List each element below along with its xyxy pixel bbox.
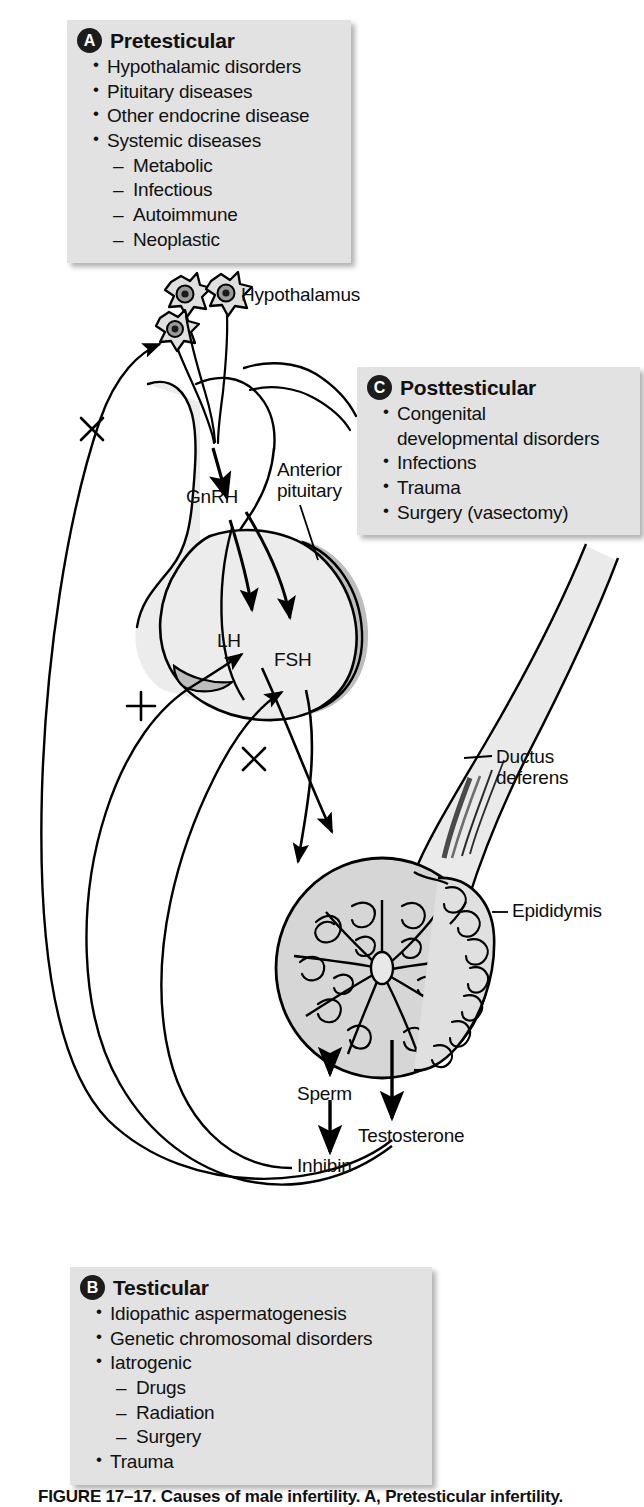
infobox-title-b: Testicular — [113, 1276, 209, 1300]
badge-a: A — [77, 28, 102, 53]
badge-c: C — [367, 375, 392, 400]
infobox-list-c: Congenital developmental disorders Infec… — [367, 402, 630, 525]
label-ductus-deferens: Ductus deferens — [496, 746, 568, 789]
list-item: Iatrogenic — [80, 1351, 422, 1376]
infobox-testicular: B Testicular Idiopathic aspermatogenesis… — [70, 1267, 432, 1485]
feedback-sign-negative-hypothalamus — [81, 418, 103, 440]
list-item: Infectious — [77, 178, 341, 203]
list-item: Trauma — [367, 476, 630, 501]
list-item: Radiation — [80, 1401, 422, 1426]
infobox-posttesticular: C Posttesticular Congenital developmenta… — [357, 367, 640, 535]
list-item: Other endocrine disease — [77, 104, 341, 129]
list-item: Systemic diseases — [77, 129, 341, 154]
infobox-list-a: Hypothalamic disorders Pituitary disease… — [77, 55, 341, 253]
infobox-title-a: Pretesticular — [110, 29, 235, 53]
badge-b: B — [80, 1275, 105, 1300]
figure-page: Hypothalamus Anterior pituitary GnRH LH … — [0, 0, 644, 1507]
figure-caption: FIGURE 17–17. Causes of male infertility… — [38, 1487, 638, 1507]
infobox-header-c: C Posttesticular — [367, 375, 630, 400]
feedback-sign-negative-fsh — [243, 748, 265, 770]
list-item: Pituitary diseases — [77, 80, 341, 105]
inhibin-negative-feedback-path — [161, 692, 292, 1168]
label-anterior-pituitary: Anterior pituitary — [277, 459, 342, 502]
ductus-deferens-shape — [414, 544, 618, 902]
list-item: Hypothalamic disorders — [77, 55, 341, 80]
label-hypothalamus: Hypothalamus — [241, 284, 360, 305]
hypothalamic-neuron-group — [156, 272, 252, 443]
list-item: Surgery — [80, 1425, 422, 1450]
feedback-sign-positive-lh — [127, 692, 155, 720]
label-epididymis: Epididymis — [512, 900, 602, 921]
list-item: Surgery (vasectomy) — [367, 501, 630, 526]
list-item: Genetic chromosomal disorders — [80, 1327, 422, 1352]
list-item: Idiopathic aspermatogenesis — [80, 1302, 422, 1327]
list-item: Infections — [367, 451, 630, 476]
label-gnrh: GnRH — [186, 486, 238, 507]
neuron-cell-1 — [165, 273, 211, 317]
label-fsh: FSH — [274, 649, 311, 670]
label-testosterone: Testosterone — [358, 1125, 464, 1146]
list-item: Neoplastic — [77, 228, 341, 253]
list-item: Congenital developmental disorders — [367, 402, 630, 451]
label-lh: LH — [217, 630, 241, 651]
infobox-header-a: A Pretesticular — [77, 28, 341, 53]
label-inhibin: Inhibin — [297, 1155, 352, 1176]
list-item: Metabolic — [77, 154, 341, 179]
list-item: Trauma — [80, 1450, 422, 1475]
list-item: Autoimmune — [77, 203, 341, 228]
testis-shape — [276, 858, 494, 1078]
infobox-pretesticular: A Pretesticular Hypothalamic disorders P… — [67, 20, 351, 263]
infobox-header-b: B Testicular — [80, 1275, 422, 1300]
infobox-title-c: Posttesticular — [400, 376, 536, 400]
label-sperm: Sperm — [297, 1083, 352, 1104]
infobox-list-b: Idiopathic aspermatogenesis Genetic chro… — [80, 1302, 422, 1475]
list-item: Drugs — [80, 1376, 422, 1401]
pituitary-gland-shape — [160, 528, 368, 720]
